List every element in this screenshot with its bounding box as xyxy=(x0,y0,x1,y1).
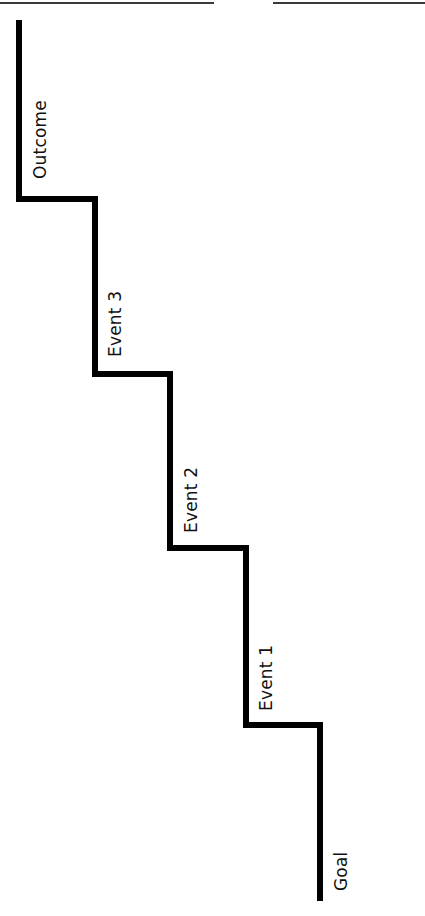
staircase-line xyxy=(0,0,425,916)
step-label-goal: Goal xyxy=(332,851,350,891)
step-label-outcome: Outcome xyxy=(31,100,49,179)
step-label-event-1: Event 1 xyxy=(257,645,275,711)
step-label-event-3: Event 3 xyxy=(106,291,124,357)
step-label-event-2: Event 2 xyxy=(182,467,200,533)
